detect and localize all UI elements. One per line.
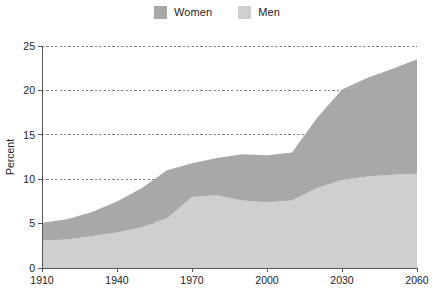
- legend-swatch-men: [238, 6, 251, 19]
- legend-swatch-women: [154, 6, 167, 19]
- y-tick-label: 20: [23, 84, 35, 96]
- y-tick-label: 5: [29, 217, 35, 229]
- plot-area: 0510152025191019401970200020302060 Perce…: [0, 20, 434, 295]
- y-axis-title: Percent: [4, 139, 16, 175]
- x-tick-label: 2000: [255, 274, 279, 286]
- legend-entry-women[interactable]: Women: [154, 6, 212, 19]
- x-tick-label: 1970: [180, 274, 204, 286]
- y-tick-label: 10: [23, 173, 35, 185]
- legend-label-men: Men: [258, 7, 280, 18]
- x-tick-label: 2060: [405, 274, 429, 286]
- area-series-group: [42, 59, 417, 268]
- x-tick-label: 2030: [330, 274, 354, 286]
- x-tick-label: 1940: [105, 274, 129, 286]
- legend-entry-men[interactable]: Men: [238, 6, 280, 19]
- y-tick-label: 25: [23, 40, 35, 52]
- chart-figure: Women Men 051015202519101940197020002030…: [0, 0, 434, 295]
- x-tick-label: 1910: [30, 274, 54, 286]
- stacked-area-chart: 0510152025191019401970200020302060 Perce…: [0, 20, 434, 295]
- legend-label-women: Women: [174, 7, 212, 18]
- y-tick-label: 15: [23, 129, 35, 141]
- y-tick-label: 0: [29, 262, 35, 274]
